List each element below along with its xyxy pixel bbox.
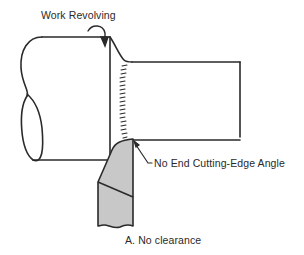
end-cutting-edge-label: No End Cutting-Edge Angle bbox=[154, 157, 285, 169]
workpiece-large-diameter bbox=[21, 37, 110, 161]
cut-shoulder-hatching bbox=[120, 65, 127, 138]
work-revolving-label: Work Revolving bbox=[41, 9, 116, 21]
workpiece-small-diameter bbox=[110, 37, 240, 140]
figure-caption: A. No clearance bbox=[125, 234, 201, 246]
lathe-turning-diagram bbox=[0, 0, 304, 255]
leader-line bbox=[134, 141, 152, 163]
cutting-tool bbox=[98, 139, 133, 228]
rotation-arrow-icon bbox=[88, 26, 108, 46]
